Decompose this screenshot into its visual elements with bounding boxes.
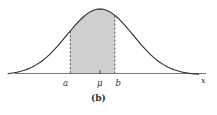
figure-caption: (b) <box>91 93 106 103</box>
label-x-axis: x <box>201 76 206 85</box>
label-b: b <box>116 78 121 88</box>
label-a: a <box>63 78 68 88</box>
normal-curve-diagram: a μ b x (b) <box>0 0 217 115</box>
shaded-area <box>70 9 115 74</box>
normal-distribution-figure: a μ b x (b) <box>0 0 217 115</box>
label-mu: μ <box>97 78 103 88</box>
